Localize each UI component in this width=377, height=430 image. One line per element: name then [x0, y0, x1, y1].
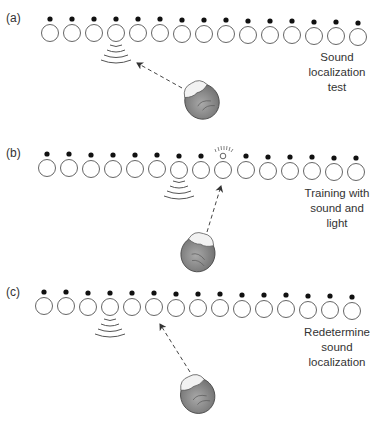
panel-a-speakers — [42, 25, 367, 46]
panel-c-speakers — [36, 298, 361, 320]
panel-c-sound-waves-icon — [95, 319, 125, 337]
panel-a-speaker-array — [42, 16, 367, 45]
panel-c-speaker-array — [36, 289, 361, 319]
panel-b-speaker-array — [39, 151, 365, 180]
panel-c-label: (c) — [6, 285, 20, 299]
panel-b-caption: Training with sound and light — [282, 186, 377, 231]
panel-b-sound-waves-icon — [164, 181, 194, 199]
panel-b-listener-head-icon — [177, 229, 220, 276]
panel-b-pointing-arrow — [207, 186, 221, 232]
panel-b-dots — [44, 151, 358, 160]
panel-b-light-icon — [215, 146, 233, 159]
panel-c-caption: Redetermine sound localization — [282, 325, 377, 370]
panel-a-caption: Sound localization test — [282, 50, 377, 95]
panel-a-label: (a) — [6, 11, 21, 25]
panel-c-pointing-arrow — [160, 324, 190, 372]
panel-b-label: (b) — [6, 146, 21, 160]
panel-a-pointing-arrow — [137, 63, 182, 88]
panel-a-listener-head-icon — [177, 75, 226, 126]
panel-c-listener-head-icon — [173, 369, 220, 419]
panel-a-sound-waves-icon — [101, 45, 131, 63]
panel-b-speakers — [39, 160, 365, 181]
